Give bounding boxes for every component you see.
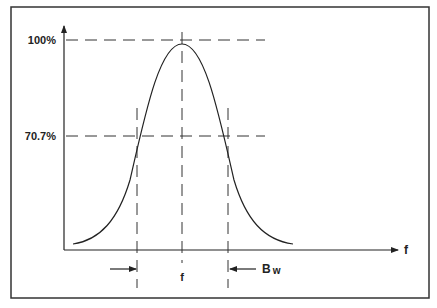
diagram-frame — [11, 7, 429, 298]
label-100-percent: 100% — [28, 34, 56, 46]
center-frequency-label: f — [180, 271, 184, 283]
bandwidth-label-sub: w — [272, 265, 281, 276]
response-curve — [73, 44, 293, 244]
x-axis-label: f — [404, 243, 409, 257]
bandwidth-label-main: B — [262, 262, 271, 276]
label-70-7-percent: 70.7% — [25, 130, 56, 142]
bandwidth-label: Bw — [262, 262, 281, 276]
bandwidth-diagram: 100% 70.7% f f Bw — [0, 0, 437, 308]
